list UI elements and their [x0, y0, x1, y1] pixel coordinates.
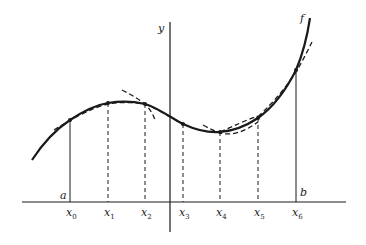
node-point-x0: [68, 118, 72, 122]
node-point-x2: [143, 102, 147, 106]
piecewise-approximation-diagram: y f a b x0 x1: [0, 0, 366, 245]
endpoint-label-a: a: [60, 189, 67, 202]
y-axis-label: y: [157, 22, 165, 35]
svg-text:x3: x3: [179, 206, 190, 221]
node-point-x1: [106, 101, 110, 105]
node-label-x3: x3: [179, 206, 190, 221]
svg-text:x0: x0: [66, 206, 77, 221]
node-label-x1: x1: [104, 206, 115, 221]
curve-label-f: f: [299, 12, 306, 25]
node-label-x6: x6: [292, 206, 303, 221]
approx-piece-4: [220, 116, 258, 132]
endpoint-label-b: b: [300, 186, 307, 199]
node-point-x3: [181, 122, 185, 126]
node-label-x4: x4: [216, 206, 227, 221]
svg-text:x2: x2: [141, 206, 152, 221]
node-label-x0: x0: [66, 206, 77, 221]
approx-piece-0: [54, 103, 145, 131]
node-point-x5: [256, 116, 260, 120]
diagram-canvas: y f a b x0 x1: [0, 0, 366, 245]
svg-text:x5: x5: [254, 206, 265, 221]
node-label-x5: x5: [254, 206, 265, 221]
node-label-x2: x2: [141, 206, 152, 221]
svg-text:x4: x4: [216, 206, 227, 221]
node-point-x4: [218, 130, 222, 134]
svg-text:x1: x1: [104, 206, 115, 221]
function-curve-f: [32, 18, 310, 160]
node-point-x6: [294, 68, 298, 72]
svg-text:x6: x6: [292, 206, 303, 221]
